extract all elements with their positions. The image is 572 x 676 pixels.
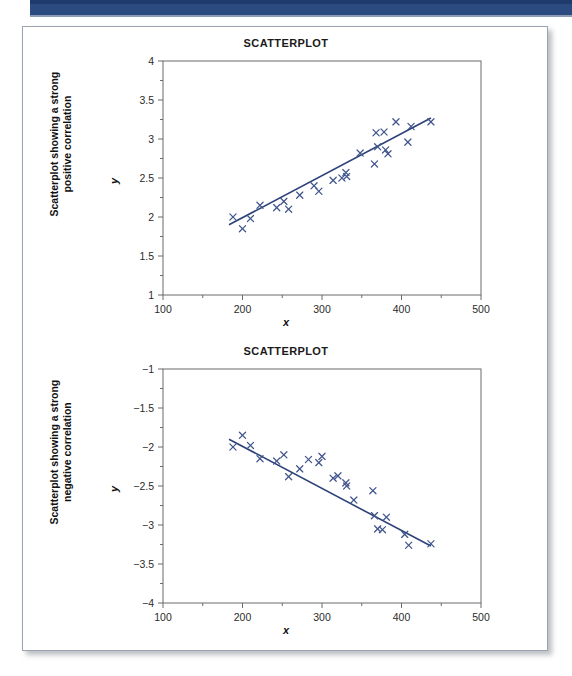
- data-point: [351, 497, 357, 503]
- data-point: [319, 453, 325, 459]
- x-tick-label: 200: [234, 611, 252, 623]
- data-point: [330, 177, 336, 183]
- header-rule-highlight: [30, 0, 572, 4]
- y-tick-label: −3: [142, 519, 154, 531]
- data-point: [405, 139, 411, 145]
- y-tick-label: −3.5: [133, 558, 154, 570]
- y-tick-label: −2: [142, 441, 154, 453]
- y-tick-label: 2: [148, 211, 154, 223]
- data-point: [383, 514, 389, 520]
- y-tick-label: 4: [148, 55, 154, 67]
- data-point: [370, 488, 376, 494]
- x-tick-label: 200: [234, 303, 252, 315]
- data-point: [230, 444, 236, 450]
- data-point: [371, 161, 377, 167]
- y-tick-label: 1.5: [139, 250, 154, 262]
- y-tick-label: 1: [148, 289, 154, 301]
- data-point: [247, 215, 253, 221]
- scatterplot-positive: SCATTERPLOT Scatterplot showing a strong…: [23, 35, 549, 335]
- data-point: [230, 214, 236, 220]
- data-point: [281, 198, 287, 204]
- header-rule: [30, 0, 572, 17]
- x-tick-label: 100: [154, 303, 172, 315]
- data-point: [381, 129, 387, 135]
- plot-frame: [163, 61, 481, 295]
- data-point: [247, 442, 253, 448]
- y-tick-label: −1.5: [133, 402, 154, 414]
- data-point: [297, 466, 303, 472]
- data-point: [274, 205, 280, 211]
- plot-frame: [163, 369, 481, 603]
- data-point: [406, 542, 412, 548]
- y-tick-label: 3.5: [139, 94, 154, 106]
- data-point: [274, 458, 280, 464]
- y-tick-label: 3: [148, 133, 154, 145]
- plot-area: 11.522.533.54100200300400500: [23, 35, 549, 335]
- x-tick-label: 500: [472, 303, 490, 315]
- y-tick-label: −4: [142, 597, 154, 609]
- y-tick-label: −2.5: [133, 480, 154, 492]
- data-point: [297, 192, 303, 198]
- x-tick-label: 300: [313, 611, 331, 623]
- x-tick-label: 500: [472, 611, 490, 623]
- x-tick-label: 300: [313, 303, 331, 315]
- data-point: [316, 460, 322, 466]
- figure-panel: SCATTERPLOT Scatterplot showing a strong…: [22, 26, 548, 651]
- plot-area: −4−3.5−3−2.5−2−1.5−1100200300400500: [23, 343, 549, 643]
- data-point: [373, 130, 379, 136]
- data-point: [239, 226, 245, 232]
- data-point: [286, 474, 292, 480]
- trend-line: [229, 439, 431, 546]
- data-point: [239, 432, 245, 438]
- x-tick-label: 400: [393, 611, 411, 623]
- y-tick-label: 2.5: [139, 172, 154, 184]
- data-point: [393, 119, 399, 125]
- x-tick-label: 100: [154, 611, 172, 623]
- data-point: [379, 527, 385, 533]
- data-point: [257, 456, 263, 462]
- y-tick-label: −1: [142, 363, 154, 375]
- data-point: [257, 202, 263, 208]
- data-point: [305, 456, 311, 462]
- data-point: [344, 173, 350, 179]
- data-point: [286, 206, 292, 212]
- data-point: [281, 452, 287, 458]
- scatterplot-negative: SCATTERPLOT Scatterplot showing a strong…: [23, 343, 549, 643]
- x-tick-label: 400: [393, 303, 411, 315]
- trend-line: [229, 118, 431, 225]
- data-point: [428, 119, 434, 125]
- data-point: [316, 188, 322, 194]
- data-point: [339, 175, 345, 181]
